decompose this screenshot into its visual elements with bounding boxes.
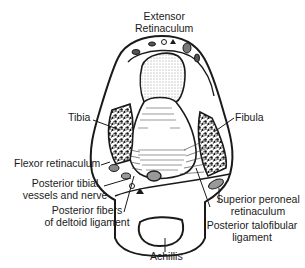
label-achillis: Achillis <box>150 250 183 262</box>
label-ptf-line1: Posterior talofibular <box>202 219 302 231</box>
tendon-4 <box>195 54 200 62</box>
label-extensor-line2: Retinaculum <box>135 22 193 34</box>
label-extensor-retinaculum: Extensor Retinaculum <box>135 10 193 34</box>
label-ptv-line2: vessels and nerve <box>20 189 110 201</box>
label-spr-line1: Superior peroneal <box>210 193 305 205</box>
vessel-1 <box>162 40 167 45</box>
tendon-1 <box>132 50 140 55</box>
fhl-tendon <box>147 171 161 181</box>
tibia-bone <box>109 104 133 164</box>
label-posterior-tibial-vessels: Posterior tibial vessels and nerve <box>20 177 110 201</box>
label-spr-line2: retinaculum <box>210 205 305 217</box>
label-posterior-talofibular-ligament: Posterior talofibular ligament <box>202 219 302 243</box>
label-pfd-line2: of deltoid ligament <box>42 216 132 228</box>
label-ptv-line1: Posterior tibial <box>20 177 110 189</box>
label-posterior-fibers-deltoid: Posterior fibers of deltoid ligament <box>42 204 132 228</box>
label-fibula: Fibula <box>235 111 264 123</box>
label-tibia: Tibia <box>68 111 90 123</box>
label-superior-peroneal-retinaculum: Superior peroneal retinaculum <box>210 193 305 217</box>
tibialis-posterior-tendon <box>109 165 119 172</box>
tendon-3 <box>183 43 191 53</box>
tendon-2 <box>149 42 156 46</box>
achilles-tendon <box>139 217 183 246</box>
label-flexor-retinaculum: Flexor retinaculum <box>14 157 100 169</box>
label-extensor-line1: Extensor <box>135 10 193 22</box>
label-ptf-line2: ligament <box>202 231 302 243</box>
label-pfd-line1: Posterior fibers <box>42 204 132 216</box>
talus-head <box>140 53 185 102</box>
